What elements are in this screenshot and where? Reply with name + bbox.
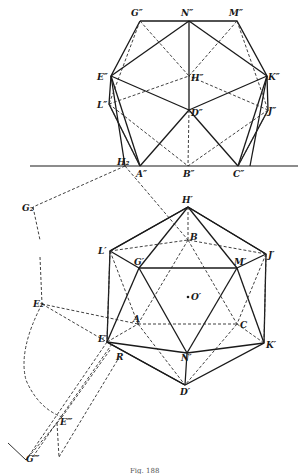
front-view [109,21,268,166]
label-d-top: D′ [179,387,191,397]
label-o-top: O′ [191,292,202,302]
label-g3: G‴ [26,454,40,464]
label-e-front: E″ [96,72,108,82]
label-e2: E₂ [32,299,44,309]
label-a-front: A″ [135,169,147,179]
construction-lines [8,166,188,460]
label-h-top: H′ [181,195,194,205]
label-g-front: G″ [131,8,143,18]
label-m-front: M″ [228,8,243,18]
label-g2: G₂ [22,203,34,213]
icosahedron-projection-diagram: G″ N″ M″ E″ H″ K″ L″ D″ J″ A″ B″ C″ [0,0,302,474]
label-j-top: J′ [266,250,275,260]
label-c-top: C [240,320,248,330]
label-e3: E‴ [59,417,73,427]
label-n-front: N″ [180,8,193,18]
label-d-front: D″ [190,108,203,118]
label-m-top: M′ [233,257,247,267]
label-j-front: J″ [266,106,276,116]
label-l-top: L′ [97,246,107,256]
label-a-top: A [132,314,140,324]
label-n-top: N′ [180,353,192,363]
label-l-front: L″ [96,100,107,110]
label-b-top: B [189,232,198,242]
label-h-front: H″ [190,73,204,83]
figure-caption: Fig. 188 [130,467,159,474]
label-k-top: K′ [265,340,277,350]
label-h2: H₂ [116,157,130,167]
label-b-front: B″ [182,169,195,179]
center-point-o [187,296,190,299]
label-g-top: G′ [134,257,145,267]
label-c-front: C″ [233,169,244,179]
label-k-front: K″ [267,72,280,82]
